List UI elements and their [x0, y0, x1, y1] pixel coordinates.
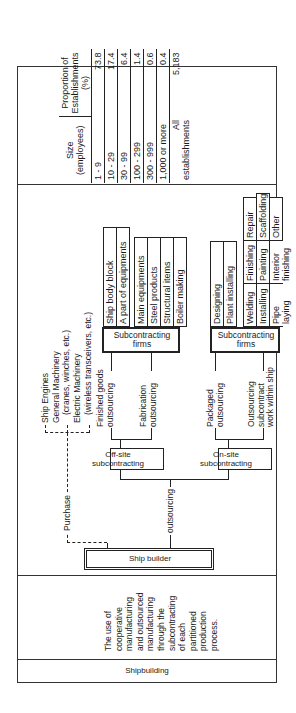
connector-line — [111, 353, 112, 371]
on-site-label: On-sitesubcontracting — [198, 450, 254, 468]
grid-cell: Welding — [243, 283, 257, 327]
description-line: manufacturing — [145, 579, 156, 651]
packaged-label: Packagedoutsourcing — [206, 383, 225, 427]
purchase-item: General Machinery — [51, 351, 61, 423]
divider — [17, 575, 277, 576]
purchase-item: Ship Engines — [40, 373, 50, 423]
item-box: Steel products — [147, 237, 161, 327]
connector-line — [215, 439, 263, 440]
subcontracting-firms-box: Subcontractingfirms — [210, 327, 280, 353]
outsourcing-label: outsourcing — [165, 487, 175, 535]
connector-line — [215, 353, 216, 371]
ship-builder-box: Ship builder — [84, 548, 214, 570]
description-line: process. — [209, 579, 220, 651]
off-site-label: Off-sitesubcontracting — [90, 450, 146, 468]
table-row: 300 - 9990.6 — [144, 49, 157, 183]
connector-line — [215, 428, 216, 440]
subcontracting-firms-label: Subcontractingfirms — [104, 331, 180, 349]
purchase-item: Electric Machinery — [72, 354, 82, 423]
table-row: 10 - 2917.4 — [105, 49, 118, 183]
table-header: Size(employees) — [59, 117, 92, 183]
table-header: Proportion ofEstablishments (%) — [59, 49, 92, 117]
table-total-row: Allestablishments5,183 — [170, 49, 193, 183]
divider — [17, 659, 277, 660]
grid-cell: Other — [269, 197, 283, 241]
finished-goods-label: Finished goodsoutsourcing — [96, 369, 115, 427]
connector-line — [111, 439, 151, 440]
purchase-line — [45, 425, 46, 433]
purchase-line — [107, 543, 108, 548]
grid-cell: Installing — [256, 283, 270, 327]
divider — [17, 184, 277, 185]
purchase-label: Purchase — [62, 493, 72, 533]
item-box: Boiler making — [173, 237, 187, 327]
item-box: Designing — [210, 241, 224, 327]
table-row: 100 - 2991.4 — [131, 49, 144, 183]
connector-line — [151, 428, 152, 440]
size-table: Size(employees) Proportion ofEstablishme… — [59, 49, 192, 183]
purchase-item: (wireless transceivers, etc.) — [83, 312, 93, 415]
item-box: Ship body block — [103, 227, 117, 327]
section-title: Shipbuilding — [125, 666, 169, 676]
item-box: A part of equipments — [116, 227, 130, 327]
grid-cell: Finishing — [243, 240, 257, 284]
grid-cell: Painting — [256, 240, 270, 284]
description-line: production — [198, 579, 209, 651]
table-row: 30 - 996.4 — [118, 49, 131, 183]
fabrication-label: Fabricationoutsourcing — [139, 383, 158, 427]
purchase-line — [89, 425, 90, 433]
grid-cell: Interior finishing — [269, 240, 283, 284]
description-line: partitioned — [188, 579, 199, 651]
subcontracting-firms-box: Subcontractingfirms — [102, 327, 180, 353]
connector-line — [111, 428, 112, 440]
grid-cell: Repair — [243, 197, 257, 241]
description-line: of each — [177, 579, 188, 651]
connector-line — [263, 353, 264, 371]
connector-line — [228, 440, 229, 448]
diagram-page: Shipbuilding The use of cooperative manu… — [17, 66, 277, 683]
grid-cell: Pipe laying — [269, 283, 283, 327]
connector-line — [151, 353, 152, 371]
description-line: manufacturing — [124, 579, 135, 651]
description-line: The use of — [103, 579, 114, 651]
purchase-item: (cranes, winches, etc.) — [61, 330, 71, 415]
description-line: through the — [156, 579, 167, 651]
table-row: 1,000 or more0.4 — [157, 49, 170, 183]
connector-line — [120, 440, 121, 448]
description-line: cooperative — [114, 579, 125, 651]
on-site-box: On-sitesubcontracting — [218, 448, 272, 470]
description: The use of cooperative manufacturing and… — [103, 579, 220, 651]
connector-line — [263, 428, 264, 440]
purchase-line — [67, 542, 107, 543]
off-site-box: Off-sitesubcontracting — [110, 448, 164, 470]
description-line: and outsourced — [135, 579, 146, 651]
purchase-line — [67, 425, 68, 433]
connector-line — [120, 470, 121, 480]
table-row: 1 - 973.8 — [92, 49, 105, 183]
outsourcing-subcontract-label: Outsourcingsubcontractwork within ship — [247, 367, 276, 427]
description-line: subcontracting — [167, 579, 178, 651]
grid-cell: Scaffolding — [256, 193, 270, 241]
branch-line — [120, 479, 228, 480]
item-box: Main equipments — [134, 237, 148, 327]
item-box: Plant installing — [223, 241, 237, 327]
subcontracting-firms-label: Subcontractingfirms — [212, 331, 280, 349]
item-box: Structural items — [160, 237, 174, 327]
connector-line — [228, 470, 229, 480]
ship-builder-label: Ship builder — [88, 554, 212, 564]
